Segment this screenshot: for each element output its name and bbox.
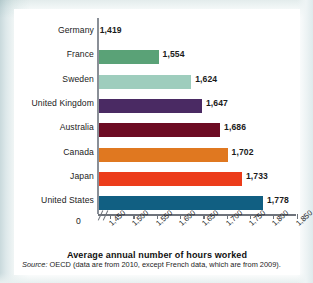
category-label: Australia (0, 122, 94, 132)
bar-row: Sweden 1,624 (14, 75, 300, 89)
value-label: 1,624 (195, 74, 217, 84)
figure-panel: Germany 1,419 France 1,554 Sweden 1,624 … (14, 9, 300, 275)
plot-area: Germany 1,419 France 1,554 Sweden 1,624 … (14, 18, 300, 218)
value-label: 1,702 (232, 147, 254, 157)
bar (99, 148, 228, 162)
category-label: Canada (0, 147, 94, 157)
bar-row: United States 1,778 (14, 196, 300, 210)
value-label: 1,647 (206, 98, 228, 108)
category-label: Japan (0, 171, 94, 181)
bar-row: Germany 1,419 (14, 26, 300, 40)
value-label: 1,554 (163, 49, 185, 59)
bar (99, 99, 202, 113)
category-label: Germany (0, 25, 94, 35)
bar-row: United Kingdom 1,647 (14, 99, 300, 113)
source-note: Source: OECD (data are from 2010, except… (22, 260, 300, 269)
value-label: 1,686 (224, 122, 246, 132)
bar-row: Japan 1,733 (14, 172, 300, 186)
category-label: France (0, 49, 94, 59)
category-label: United Kingdom (0, 98, 94, 108)
bar (99, 123, 221, 137)
value-label: 1,419 (100, 25, 122, 35)
x-axis-title: Average annual number of hours worked (14, 250, 300, 260)
category-label: Sweden (0, 74, 94, 84)
source-text: OECD (data are from 2010, except French … (50, 260, 281, 269)
bar (99, 75, 192, 89)
bar-row: Canada 1,702 (14, 148, 300, 162)
bar (99, 172, 242, 186)
category-label: United States (0, 195, 94, 205)
value-label: 1,733 (246, 171, 268, 181)
source-prefix: Source: (22, 260, 47, 269)
bar (99, 50, 159, 64)
value-label: 1,778 (267, 195, 289, 205)
bar-row: France 1,554 (14, 50, 300, 64)
x-axis-zero-label: 0 (76, 216, 81, 226)
bar-row: Australia 1,686 (14, 123, 300, 137)
